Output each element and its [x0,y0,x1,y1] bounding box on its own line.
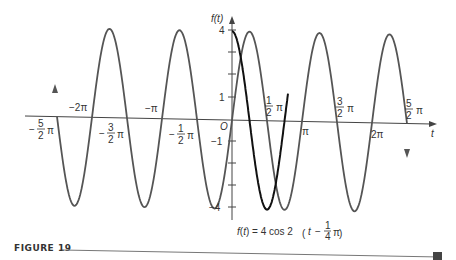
figure-caption: FIGURE 19 [14,243,71,253]
svg-text:4: 4 [325,231,331,242]
x-tick-neg5half-pi: −52π [29,118,54,141]
origin-label: O [220,121,228,132]
x-axis-arrow-icon [429,121,437,127]
svg-text:π: π [47,125,54,136]
x-tick-neg2pi: −2π [69,102,87,113]
x-tick-negpi: −π [145,103,158,114]
svg-text:−: − [29,124,35,135]
x-tick-5half-pi: 52π [405,98,423,121]
x-axis [25,116,432,124]
x-tick-neghalf-pi: −12π [169,123,194,146]
svg-text:1: 1 [325,220,331,231]
figure-canvas: f(t) t O 4 1 −1 −4 −2π −π 12π 32π 52π −5… [0,0,456,260]
svg-text:5: 5 [38,118,44,129]
svg-text:π: π [117,129,124,140]
svg-text:t: t [308,226,312,237]
svg-text:2: 2 [108,134,114,145]
svg-text:−: − [315,226,321,237]
svg-text:1: 1 [178,123,184,134]
svg-text:π: π [276,102,283,113]
curve-right-arrow-icon [404,149,410,158]
svg-text:2: 2 [406,110,412,121]
svg-text:1: 1 [266,95,272,106]
x-tick-neg3half-pi: −32π [99,122,124,145]
caption-rule [62,250,440,257]
svg-text:2: 2 [38,130,44,141]
svg-text:π: π [416,105,423,116]
x-tick-pi: π [302,126,309,137]
x-tick-2pi: 2π [371,129,384,140]
svg-text:2: 2 [266,107,272,118]
svg-text:3: 3 [108,122,114,133]
svg-text:π: π [347,103,354,114]
x-axis-label: t [431,128,435,139]
svg-text:5: 5 [406,98,412,109]
x-tick-3half-pi: 32π [336,96,354,119]
svg-text:f(t) = 4 cos 2: f(t) = 4 cos 2 [237,226,293,237]
svg-text:): ) [339,228,342,239]
svg-text:2: 2 [337,108,343,119]
end-marker [433,252,442,260]
equation-label: f(t) = 4 cos 2 ( t − 1 4 π ) [237,220,342,242]
x-tick-half-pi: 12π [265,95,283,118]
svg-text:−: − [99,128,105,139]
y-tick-1: 1 [219,92,225,103]
y-axis-label: f(t) [211,13,223,24]
y-tick-neg4: −4 [209,202,221,213]
svg-text:3: 3 [337,96,343,107]
svg-text:π: π [187,130,194,141]
y-tick-4: 4 [219,25,225,36]
svg-text:2: 2 [178,135,184,146]
y-axis-arrow-icon [229,16,235,24]
svg-text:−: − [169,129,175,140]
svg-text:(: ( [302,228,306,239]
y-tick-neg1: −1 [211,136,223,147]
curve-left-arrow-icon [52,84,58,93]
